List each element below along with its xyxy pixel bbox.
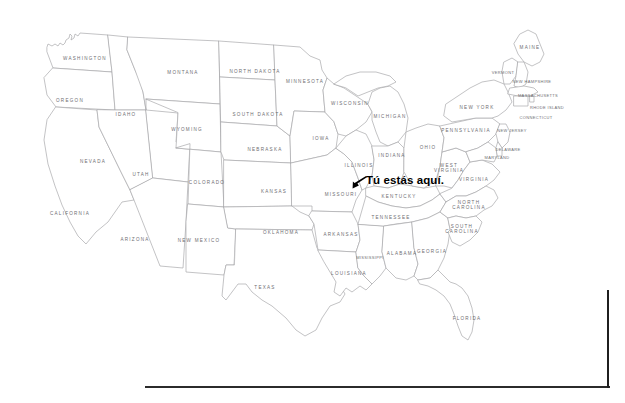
- state-shape-az: [130, 178, 188, 268]
- state-shape-ks: [224, 160, 292, 207]
- slide-canvas: WASHINGTONOREGONCALIFORNIAIDAHONEVADAUTA…: [0, 0, 625, 403]
- state-shape-mi: [368, 86, 408, 146]
- state-shape-fl: [418, 270, 474, 340]
- state-shape-ny: [444, 80, 512, 122]
- slide-frame-right-rule: [607, 290, 609, 388]
- state-shape-ga: [412, 212, 450, 280]
- state-shape-nd: [219, 41, 275, 80]
- state-shape-sc: [448, 216, 482, 246]
- state-shape-ct: [514, 96, 528, 106]
- slide-frame-bottom-rule: [145, 386, 610, 388]
- state-shape-me: [514, 30, 544, 66]
- state-shape-ma: [508, 86, 538, 96]
- us-state-outlines-svg: [0, 0, 625, 403]
- state-shapes: [44, 30, 544, 340]
- state-shape-wa: [47, 33, 112, 72]
- state-shape-or: [44, 68, 115, 110]
- you-are-here-annotation: Tú estás aquí.: [366, 174, 444, 186]
- state-shape-sd: [220, 77, 277, 126]
- state-shape-ok: [224, 206, 314, 230]
- state-shape-ri: [530, 96, 534, 102]
- united-states-map: WASHINGTONOREGONCALIFORNIAIDAHONEVADAUTA…: [0, 0, 625, 403]
